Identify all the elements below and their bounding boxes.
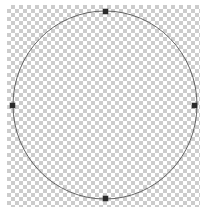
resize-handle-right[interactable] [192, 103, 197, 108]
canvas-viewport[interactable] [0, 0, 207, 218]
resize-handle-left[interactable] [10, 103, 15, 108]
transparency-checkerboard [7, 5, 200, 207]
resize-handle-top[interactable] [103, 9, 108, 14]
resize-handle-bottom[interactable] [103, 196, 108, 201]
